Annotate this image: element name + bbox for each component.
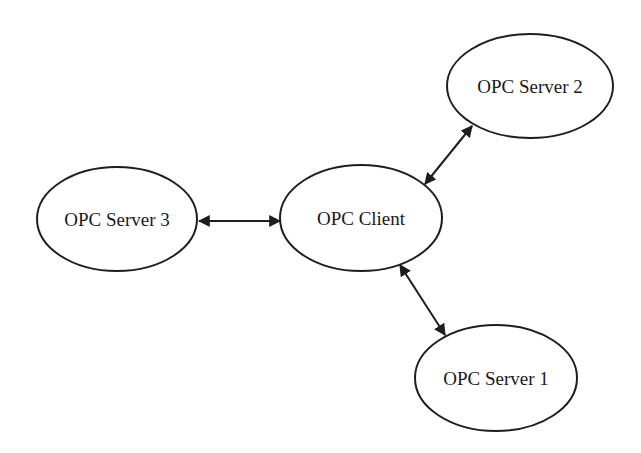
node-label: OPC Server 3 bbox=[64, 209, 170, 230]
node-label: OPC Server 2 bbox=[477, 76, 583, 97]
edge-client-server1 bbox=[400, 265, 445, 335]
node-opc-client: OPC Client bbox=[280, 165, 442, 271]
node-opc-server-2: OPC Server 2 bbox=[447, 34, 613, 138]
node-label: OPC Client bbox=[317, 208, 406, 229]
node-opc-server-3: OPC Server 3 bbox=[37, 167, 197, 271]
diagram-canvas: OPC Client OPC Server 2 OPC Server 3 OPC… bbox=[0, 0, 641, 453]
node-label: OPC Server 1 bbox=[443, 368, 549, 389]
edge-server2-client bbox=[425, 126, 472, 184]
node-opc-server-1: OPC Server 1 bbox=[415, 325, 577, 431]
